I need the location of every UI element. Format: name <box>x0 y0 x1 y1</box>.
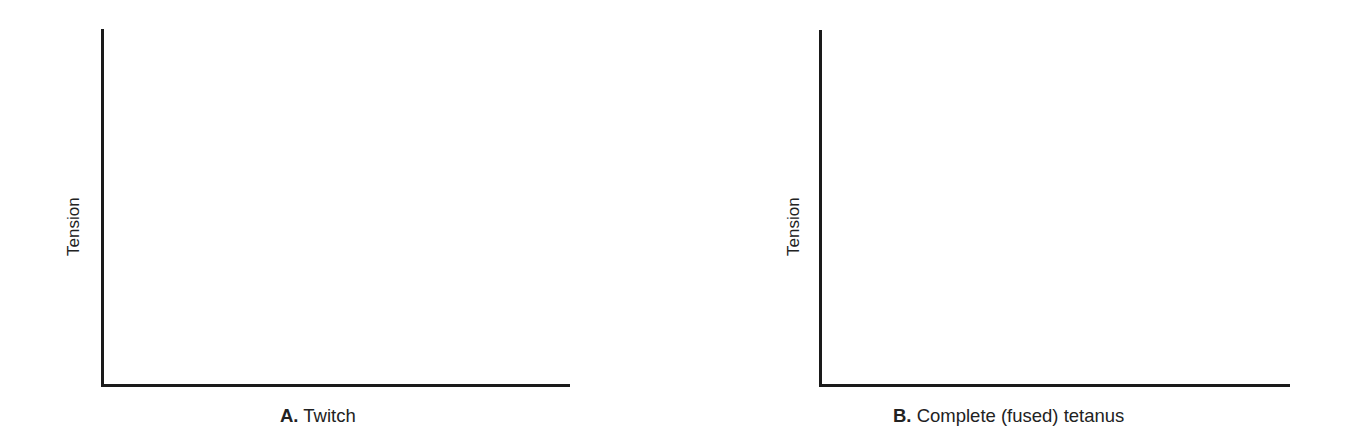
y-axis-b <box>819 30 822 387</box>
chart-panel-b: Tension B. Complete (fused) tetanus <box>676 0 1352 431</box>
y-axis-label-b: Tension <box>784 197 804 256</box>
caption-a: A. Twitch <box>280 405 356 427</box>
caption-letter-b: B. <box>893 405 912 426</box>
x-axis-a <box>101 384 570 387</box>
caption-b: B. Complete (fused) tetanus <box>893 405 1124 427</box>
x-axis-b <box>819 384 1290 387</box>
caption-text-a: Twitch <box>303 405 355 426</box>
caption-text-b: Complete (fused) tetanus <box>917 405 1125 426</box>
y-axis-a <box>101 29 104 387</box>
chart-panel-a: Tension A. Twitch <box>0 0 676 431</box>
y-axis-label-a: Tension <box>64 197 84 256</box>
caption-letter-a: A. <box>280 405 299 426</box>
